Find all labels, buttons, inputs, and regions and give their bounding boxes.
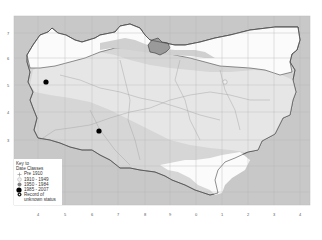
legend: Key to Date Classes Pre 1910 1910 - 1949…	[14, 159, 62, 205]
record-marker-1985-2007	[96, 128, 101, 133]
x-tick-label: 2	[247, 212, 249, 217]
x-tick-label: 1	[221, 212, 223, 217]
dotted-circle-icon	[16, 192, 22, 197]
y-tick-label: 6	[7, 56, 9, 61]
x-tick-label: 9	[169, 212, 171, 217]
x-tick-label: 5	[64, 212, 66, 217]
x-tick-label: 6	[91, 212, 93, 217]
x-tick-label: 4	[299, 212, 301, 217]
y-tick-label: 3	[7, 138, 9, 143]
x-tick-label: 0	[195, 212, 197, 217]
legend-label-continuation: unknown status	[16, 197, 60, 202]
y-tick-label: 4	[7, 110, 9, 115]
x-tick-label: 7	[117, 212, 119, 217]
record-marker-1910-1949	[223, 80, 227, 84]
x-tick-label: 8	[144, 212, 146, 217]
y-tick-label: 7	[7, 31, 9, 36]
record-marker-1985-2007	[43, 79, 48, 84]
x-tick-label: 4	[37, 212, 39, 217]
x-tick-label: 3	[273, 212, 275, 217]
y-tick-label: 5	[7, 83, 9, 88]
